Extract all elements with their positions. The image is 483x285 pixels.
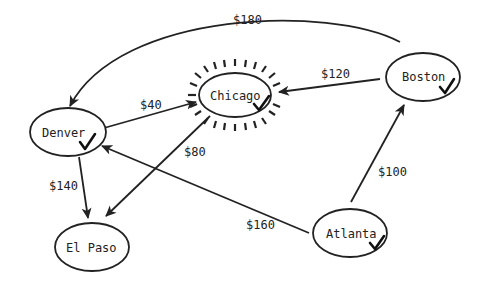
node-atlanta: Atlanta [313, 209, 387, 257]
node-label-chicago: Chicago [210, 89, 261, 103]
node-label-denver: Denver [42, 126, 85, 140]
graph-canvas: $180 $120 $40 $80 $140 $100 $160 [0, 0, 483, 285]
edge-denver-chicago: $40 [104, 98, 196, 128]
edge-label-40: $40 [140, 98, 162, 112]
node-denver: Denver [30, 108, 106, 156]
node-label-atlanta: Atlanta [326, 227, 377, 241]
node-label-boston: Boston [402, 70, 445, 84]
edge-chicago-elpaso: $80 [106, 116, 210, 216]
edge-label-160: $160 [246, 218, 275, 232]
edge-atlanta-boston: $100 [351, 105, 407, 202]
edge-label-100: $100 [378, 165, 407, 179]
node-el-paso: El Paso [55, 223, 129, 271]
edge-label-180: $180 [233, 13, 262, 27]
edge-denver-elpaso: $140 [49, 157, 88, 218]
edge-boston-chicago: $120 [279, 67, 380, 92]
node-boston: Boston [386, 53, 460, 101]
node-chicago: Chicago [199, 73, 271, 117]
node-label-el-paso: El Paso [66, 241, 117, 255]
edge-label-140: $140 [49, 179, 78, 193]
edge-label-120: $120 [321, 67, 350, 81]
edge-label-80: $80 [184, 145, 206, 159]
